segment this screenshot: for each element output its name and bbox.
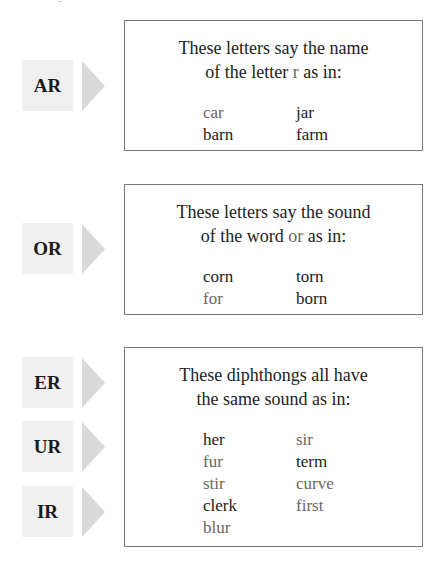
word: born	[296, 288, 389, 310]
card-heading: These letters say the name of the letter…	[125, 36, 422, 84]
word: jar	[296, 102, 389, 124]
card-ar: These letters say the name of the letter…	[124, 20, 423, 151]
arrow-right-icon	[82, 358, 105, 408]
heading-text: as in:	[303, 226, 346, 246]
word: her	[203, 429, 296, 451]
label-er: ER	[22, 357, 73, 408]
card-er-ur-ir: These diphthongs all have the same sound…	[124, 347, 423, 547]
cropped-text-fragment	[58, 0, 62, 2]
word: torn	[296, 266, 389, 288]
label-or: OR	[22, 223, 73, 274]
word: fur	[203, 451, 296, 473]
word: first	[296, 495, 389, 517]
arrow-right-icon	[82, 422, 105, 472]
heading-line-2: of the letter r as in:	[125, 60, 422, 84]
arrow-right-icon	[82, 487, 105, 537]
heading-line-2: of the word or as in:	[125, 224, 422, 248]
example-words: car jar barn farm	[203, 102, 422, 146]
example-words: corn torn for born	[203, 266, 422, 310]
word: curve	[296, 473, 389, 495]
card-heading: These letters say the sound of the word …	[125, 200, 422, 248]
arrow-right-icon	[82, 224, 105, 274]
heading-text: of the letter	[205, 62, 292, 82]
word: for	[203, 288, 296, 310]
heading-line-1: These letters say the sound	[125, 200, 422, 224]
heading-key-letter: or	[288, 226, 303, 246]
label-ir: IR	[22, 486, 73, 537]
label-ur: UR	[22, 421, 73, 472]
word: sir	[296, 429, 389, 451]
word: clerk	[203, 495, 296, 517]
word: farm	[296, 124, 389, 146]
heading-line-1: These diphthongs all have	[125, 363, 422, 387]
heading-text: of the word	[201, 226, 288, 246]
word: barn	[203, 124, 296, 146]
word: term	[296, 451, 389, 473]
word: corn	[203, 266, 296, 288]
word: blur	[203, 517, 296, 539]
label-ar: AR	[22, 60, 73, 111]
word: car	[203, 102, 296, 124]
arrow-right-icon	[82, 61, 105, 111]
word: stir	[203, 473, 296, 495]
heading-text: as in:	[299, 62, 342, 82]
example-words: her sir fur term stir curve clerk first …	[203, 429, 422, 539]
heading-line-1: These letters say the name	[125, 36, 422, 60]
card-or: These letters say the sound of the word …	[124, 184, 423, 315]
heading-line-2: the same sound as in:	[125, 387, 422, 411]
card-heading: These diphthongs all have the same sound…	[125, 363, 422, 411]
